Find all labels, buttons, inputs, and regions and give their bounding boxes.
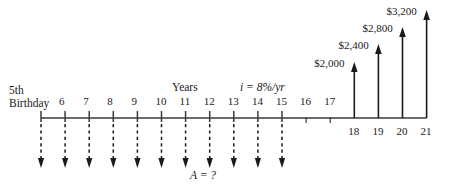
outflow-arrowhead-year-6 (62, 158, 68, 168)
year-label-13: 13 (228, 96, 239, 107)
outflow-arrowhead-year-11 (183, 158, 189, 168)
outflow-arrowhead-year-12 (207, 158, 213, 168)
outflow-arrowhead-year-15 (279, 158, 285, 168)
outflow-arrowhead-year-13 (231, 158, 237, 168)
year-label-10: 10 (156, 96, 167, 107)
inflow-arrowhead-year-20 (399, 27, 406, 37)
unknown-annuity-label: A = ? (190, 170, 216, 182)
year-label-7: 7 (83, 96, 89, 107)
year-label-14: 14 (252, 96, 263, 107)
inflow-amount-label-year-19: $2,400 (338, 40, 368, 51)
year-label-11: 11 (180, 96, 191, 107)
year-label-19: 19 (372, 126, 383, 137)
outflow-arrowhead-year-9 (134, 158, 140, 168)
origin-birthday-line2: Birthday (9, 97, 49, 110)
origin-birthday-label: 5th Birthday (9, 84, 49, 109)
year-label-9: 9 (131, 96, 137, 107)
outflow-arrowhead-year-8 (110, 158, 116, 168)
outflow-arrowhead-year-5 (38, 158, 44, 168)
axis-caption-label: Years (172, 82, 198, 94)
year-label-18: 18 (348, 126, 359, 137)
year-label-8: 8 (107, 96, 113, 107)
inflow-amount-label-year-20: $2,800 (363, 23, 393, 34)
year-label-16: 16 (300, 96, 311, 107)
year-label-21: 21 (421, 126, 432, 137)
cash-outflow-arrow-group (38, 124, 285, 168)
year-label-6: 6 (59, 96, 65, 107)
outflow-arrowhead-year-10 (158, 158, 164, 168)
inflow-arrowhead-year-18 (351, 62, 358, 72)
inflow-amount-label-year-21: $3,200 (387, 6, 417, 17)
interest-rate-label: i = 8%/yr (240, 82, 285, 94)
outflow-arrowhead-year-14 (255, 158, 261, 168)
year-label-17: 17 (324, 96, 335, 107)
outflow-arrowhead-year-7 (86, 158, 92, 168)
year-label-12: 12 (204, 96, 215, 107)
inflow-arrowhead-year-19 (375, 44, 382, 54)
inflow-amount-label-year-18: $2,000 (314, 58, 344, 69)
year-label-15: 15 (276, 96, 287, 107)
inflow-arrowhead-year-21 (423, 10, 430, 20)
year-tick-group (41, 111, 330, 123)
year-label-20: 20 (397, 126, 408, 137)
origin-birthday-line1: 5th (9, 84, 49, 97)
